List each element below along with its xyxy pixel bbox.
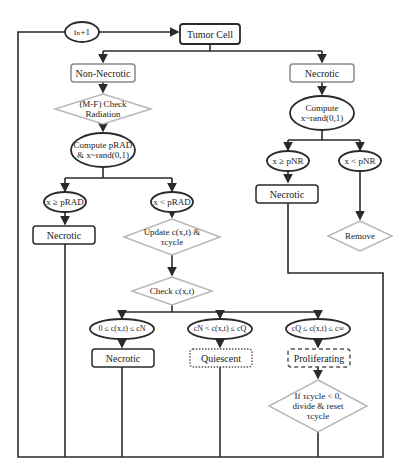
x-ge-prad-label: x ≥ pRAD [44, 196, 86, 208]
cond-quiescent-label: cN < c(x,t) ≤ cQ [188, 323, 252, 335]
quiescent-label: Quiescent [190, 349, 252, 367]
check-radiation-label: (M-F) Check Radiation [70, 99, 136, 119]
tumor-cell-label: Tumor Cell [180, 24, 240, 44]
remove-label: Remove [334, 230, 386, 242]
cond-necrotic-label: 0 ≤ c(x,t) ≤ cN [90, 323, 154, 335]
x-lt-pnr-label: x < pNR [339, 155, 381, 167]
necrotic-branch-label: Necrotic [290, 64, 354, 82]
necrotic-bottom-label: Necrotic [92, 349, 154, 367]
non-necrotic-label: Non-Necrotic [71, 64, 135, 82]
x-ge-pnr-label: x ≥ pNR [267, 155, 309, 167]
cond-proliferating-label: cQ ≤ c(x,t) ≤ c∞ [286, 323, 350, 335]
x-lt-prad-label: x < pRAD [151, 196, 193, 208]
compute-prad-label: Compute pRAD & x~rand(0,1) [73, 138, 133, 162]
time-step-label: tₙ+1 [65, 26, 99, 38]
proliferating-label: Proliferating [288, 349, 350, 367]
necrotic-left-label: Necrotic [33, 226, 95, 244]
compute-right-label: Compute x~rand(0,1) [292, 101, 352, 125]
divide-label: If τcycle < 0, divide & reset τcycle [288, 390, 348, 422]
necrotic-right-label: Necrotic [256, 185, 318, 203]
update-label: Update c(x,t) & τcycle [140, 226, 204, 248]
check-c-label: Check c(x,t) [140, 285, 204, 297]
